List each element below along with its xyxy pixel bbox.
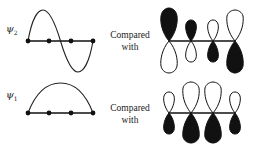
atom-dot [69, 111, 74, 116]
atom-dot [91, 39, 96, 44]
atom-dot [91, 111, 96, 116]
with-label: with [108, 114, 152, 126]
psi2-wave [26, 10, 96, 72]
with-label: with [108, 41, 152, 53]
psi2-orbitals [161, 8, 243, 73]
compared-label: Compared [108, 102, 152, 114]
psi1-orbitals [164, 82, 241, 143]
psi1-label: ψ1 [6, 90, 18, 102]
atom-dot [26, 39, 31, 44]
psi1-wave [26, 83, 96, 115]
molecular-orbital-diagram: ψ2 [0, 0, 254, 151]
psi2-compared-with: Compared with [108, 29, 152, 53]
atom-dot [47, 39, 52, 44]
atom-dot [69, 39, 74, 44]
atom-dot [47, 111, 52, 116]
psi1-compared-with: Compared with [108, 102, 152, 126]
wavefunction-plots [0, 0, 254, 151]
compared-label: Compared [108, 29, 152, 41]
atom-dot [26, 111, 31, 116]
